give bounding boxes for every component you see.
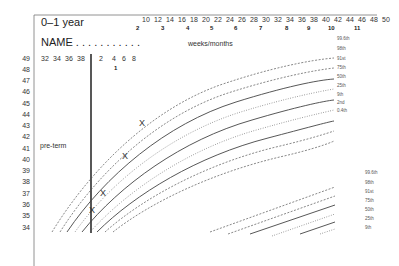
percentile-label: 9th	[337, 92, 343, 97]
y-tick: 38	[16, 178, 30, 185]
week-tick: 28	[250, 16, 258, 23]
y-tick: 43	[16, 122, 30, 129]
week-tick: 38	[310, 16, 318, 23]
month-tick: 2	[136, 25, 139, 31]
month-tick: 8	[285, 25, 288, 31]
y-tick: 41	[16, 145, 30, 152]
y-tick: 40	[16, 156, 30, 163]
percentile-label: 50th	[365, 207, 374, 212]
week-tick: 44	[346, 16, 354, 23]
curve-25th	[90, 110, 334, 232]
week-tick: 32	[274, 16, 282, 23]
early-week-tick: 4	[112, 55, 116, 62]
curve-50th	[82, 100, 334, 232]
data-point-marker: X	[89, 205, 95, 215]
percentile-label: 25th	[337, 83, 346, 88]
y-tick: 49	[16, 55, 30, 62]
percentile-label: 50th	[337, 74, 346, 79]
percentile-label: 25th	[365, 216, 374, 221]
preterm-week-tick: 36	[65, 55, 73, 62]
lower-curve-91st	[250, 205, 335, 234]
percentile-label: 91st	[337, 56, 346, 61]
week-tick: 22	[214, 16, 222, 23]
week-tick: 48	[370, 16, 378, 23]
month-tick: 4	[186, 25, 189, 31]
curve-0.4th	[113, 141, 334, 232]
week-tick: 12	[154, 16, 162, 23]
percentile-label: 99.6th	[337, 36, 350, 41]
lower-curve-50th	[300, 222, 335, 234]
early-week-tick: 6	[122, 55, 126, 62]
month-tick: 11	[354, 25, 360, 31]
data-point-marker: X	[100, 188, 106, 198]
week-tick: 46	[358, 16, 366, 23]
percentile-label: 99.6th	[365, 170, 378, 175]
week-tick: 30	[262, 16, 270, 23]
percentile-label: 9th	[365, 225, 371, 230]
percentile-label: 75th	[365, 198, 374, 203]
early-month-tick: 1	[114, 65, 117, 71]
y-tick: 44	[16, 111, 30, 118]
lower-curve-25th	[320, 229, 335, 234]
week-tick: 34	[286, 16, 294, 23]
week-tick: 18	[190, 16, 198, 23]
percentile-label: 0.4th	[337, 108, 347, 113]
percentile-label: 75th	[337, 65, 346, 70]
y-tick: 34	[16, 224, 30, 231]
data-point-marker: X	[122, 151, 128, 161]
month-tick: 3	[161, 25, 164, 31]
week-tick: 10	[142, 16, 150, 23]
week-tick: 24	[226, 16, 234, 23]
preterm-week-tick: 38	[77, 55, 85, 62]
percentile-label: 98th	[337, 46, 346, 51]
month-tick: 7	[259, 25, 262, 31]
preterm-week-tick: 32	[41, 55, 49, 62]
y-tick: 42	[16, 133, 30, 140]
percentile-label: 91st	[365, 189, 374, 194]
y-tick: 45	[16, 100, 30, 107]
preterm-week-tick: 34	[53, 55, 61, 62]
percentile-label: 2nd	[337, 100, 345, 105]
week-tick: 50	[382, 16, 390, 23]
week-tick: 40	[322, 16, 330, 23]
month-tick: 6	[234, 25, 237, 31]
week-tick: 14	[166, 16, 174, 23]
lower-curve-98th	[228, 196, 335, 234]
y-tick: 35	[16, 212, 30, 219]
curve-98th	[60, 68, 334, 232]
month-tick: 10	[328, 25, 335, 31]
preterm-label: pre-term	[40, 142, 66, 149]
week-tick: 42	[334, 16, 342, 23]
curve-91st	[67, 79, 334, 232]
y-tick: 39	[16, 167, 30, 174]
y-tick: 37	[16, 190, 30, 197]
week-tick: 16	[178, 16, 186, 23]
y-tick: 46	[16, 88, 30, 95]
early-week-tick: 2	[99, 55, 103, 62]
week-tick: 36	[298, 16, 306, 23]
y-tick: 48	[16, 66, 30, 73]
x-axis-label: weeks/months	[188, 40, 233, 47]
y-tick: 47	[16, 77, 30, 84]
data-point-marker: X	[139, 118, 145, 128]
early-week-tick: 8	[132, 55, 136, 62]
week-tick: 26	[238, 16, 246, 23]
lower-curve-99.6th	[210, 187, 335, 232]
percentile-label: 98th	[365, 180, 374, 185]
month-tick: 9	[307, 25, 310, 31]
week-tick: 20	[202, 16, 210, 23]
name-field[interactable]: NAME . . . . . . . . . . .	[41, 36, 140, 48]
y-tick: 36	[16, 201, 30, 208]
chart-title: 0–1 year	[41, 16, 84, 28]
month-tick: 5	[210, 25, 213, 31]
